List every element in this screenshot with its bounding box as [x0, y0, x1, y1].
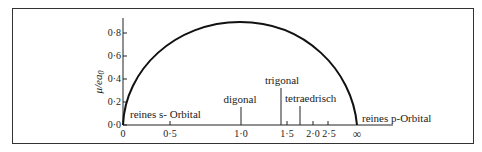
- x-tick-label: 1·5: [280, 128, 293, 139]
- x-tick-label: 1·0: [234, 128, 247, 139]
- y-axis-label: μ/ea0: [92, 71, 106, 95]
- x-tick-label: 2·5: [322, 128, 335, 139]
- y-tick-label: 0·8: [108, 27, 121, 38]
- annotation-digonal: digonal: [224, 93, 257, 105]
- y-tick-label: 0·4: [108, 73, 121, 84]
- x-tick-label: 0·5: [163, 128, 176, 139]
- x-tick-labels: 0 0·5 1·0 1·5 2·0 2·5 ∞: [121, 127, 362, 141]
- y-tick-labels: 0·0 0·2 0·4 0·6 0·8: [108, 27, 121, 130]
- x-tick-label: 2·0: [306, 128, 319, 139]
- annotation-p-orbital: reines p-Orbital: [362, 112, 431, 124]
- chart: 0·0 0·2 0·4 0·6 0·8 μ/ea0 0 0·5 1·0 1·5 …: [0, 0, 482, 152]
- x-tick-label: ∞: [353, 127, 362, 141]
- y-tick-label: 0·6: [108, 50, 121, 61]
- annotation-s-orbital: reines s- Orbital: [130, 108, 201, 120]
- y-tick-label: 0·0: [108, 119, 121, 130]
- annotation-tetraedrisch: tetraedrisch: [285, 92, 337, 104]
- y-tick-label: 0·2: [108, 96, 121, 107]
- annotation-trigonal: trigonal: [265, 74, 299, 86]
- x-tick-label: 0: [121, 128, 126, 139]
- x-ticks: [170, 121, 328, 125]
